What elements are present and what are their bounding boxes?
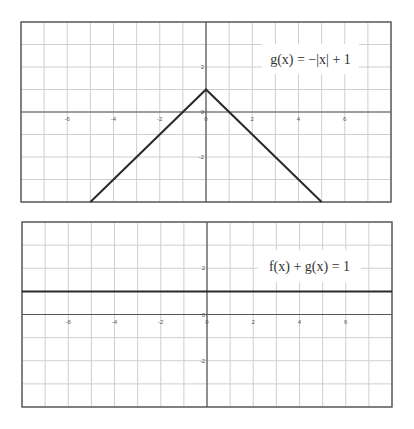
x-tick-label: 6 bbox=[343, 116, 347, 122]
x-tick-label: 2 bbox=[251, 116, 255, 122]
x-tick-label: 4 bbox=[298, 319, 302, 325]
plot-g-of-x: -6-4-2024620-2g(x) = −|x| + 1 bbox=[0, 0, 414, 215]
x-tick-label: 0 bbox=[204, 116, 208, 122]
y-tick-label: -2 bbox=[199, 154, 205, 160]
x-tick-label: 2 bbox=[252, 319, 256, 325]
x-tick-label: 0 bbox=[205, 319, 209, 325]
chart-canvas-top: -6-4-2024620-2g(x) = −|x| + 1 bbox=[0, 0, 414, 215]
plot-f-plus-g: -6-4-2024620-2f(x) + g(x) = 1 bbox=[0, 201, 414, 429]
x-tick-label: -6 bbox=[66, 319, 72, 325]
x-tick-label: 4 bbox=[297, 116, 301, 122]
equation-label: f(x) + g(x) = 1 bbox=[269, 259, 350, 275]
x-tick-label: -6 bbox=[65, 116, 71, 122]
equation-label: g(x) = −|x| + 1 bbox=[270, 52, 351, 68]
x-tick-label: -4 bbox=[112, 319, 118, 325]
y-tick-label: -2 bbox=[200, 358, 206, 364]
x-tick-label: -2 bbox=[158, 319, 164, 325]
x-tick-label: -2 bbox=[157, 116, 163, 122]
x-tick-label: -4 bbox=[111, 116, 117, 122]
chart-canvas-bottom: -6-4-2024620-2f(x) + g(x) = 1 bbox=[0, 201, 414, 429]
x-tick-label: 6 bbox=[344, 319, 348, 325]
